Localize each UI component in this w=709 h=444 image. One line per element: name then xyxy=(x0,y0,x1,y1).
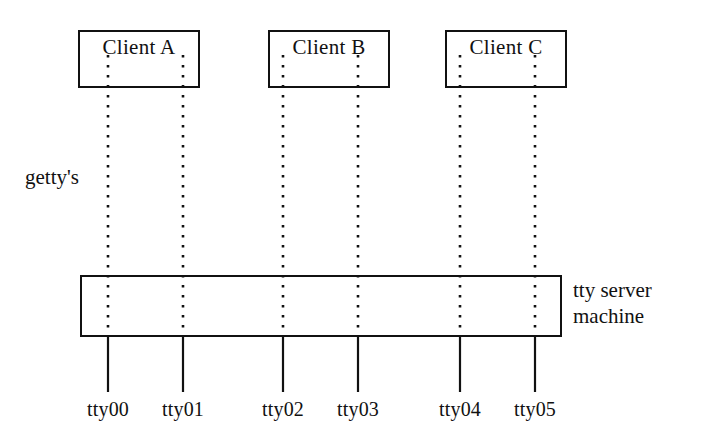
tty-server-diagram: Client A Client B Client C getty's tty s… xyxy=(0,0,709,444)
tty-server-label-line-1: tty server xyxy=(573,278,652,304)
tty-port-label-tty05: tty05 xyxy=(490,398,580,421)
tty-server-label: tty server machine xyxy=(573,278,652,329)
tty-server-label-line-2: machine xyxy=(573,304,652,330)
tty-port-label-tty03: tty03 xyxy=(313,398,403,421)
client-a-label: Client A xyxy=(78,36,200,60)
tty-solid-lines-group xyxy=(108,337,535,392)
client-b-label: Client B xyxy=(268,36,390,60)
client-c-label: Client C xyxy=(445,36,567,60)
gettys-label: getty's xyxy=(25,165,79,190)
tty-server-box xyxy=(80,275,562,337)
tty-port-label-tty01: tty01 xyxy=(138,398,228,421)
